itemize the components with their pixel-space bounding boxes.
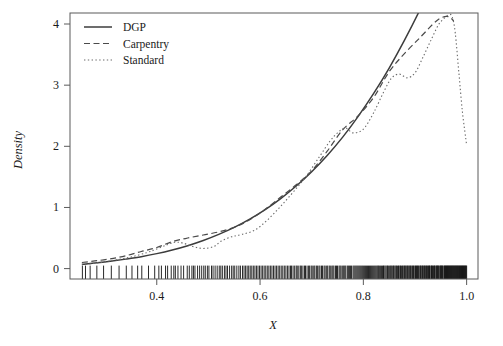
y-tick-label: 4 <box>53 17 59 31</box>
series-line-standard <box>82 14 467 265</box>
y-tick-label: 1 <box>53 200 59 214</box>
legend-label-carpentry: Carpentry <box>123 38 169 51</box>
legend-label-dgp: DGP <box>123 21 146 33</box>
plot-border <box>70 13 478 279</box>
x-tick-label: 0.4 <box>149 289 164 303</box>
chart-legend: DGPCarpentryStandard <box>84 21 169 66</box>
x-tick-label: 0.8 <box>356 289 371 303</box>
density-plot-figure: 0.40.60.81.001234 DGPCarpentryStandard X… <box>0 0 503 346</box>
x-tick-label: 1.0 <box>459 289 474 303</box>
y-tick-label: 3 <box>53 78 59 92</box>
y-axis-title: Density <box>11 130 25 170</box>
y-tick-label: 0 <box>53 262 59 276</box>
y-tick-label: 2 <box>53 139 59 153</box>
chart-canvas: 0.40.60.81.001234 DGPCarpentryStandard X… <box>0 0 503 346</box>
x-axis-title: X <box>268 318 278 332</box>
x-tick-label: 0.6 <box>253 289 268 303</box>
legend-label-standard: Standard <box>123 54 164 66</box>
rug-marks <box>82 266 466 279</box>
